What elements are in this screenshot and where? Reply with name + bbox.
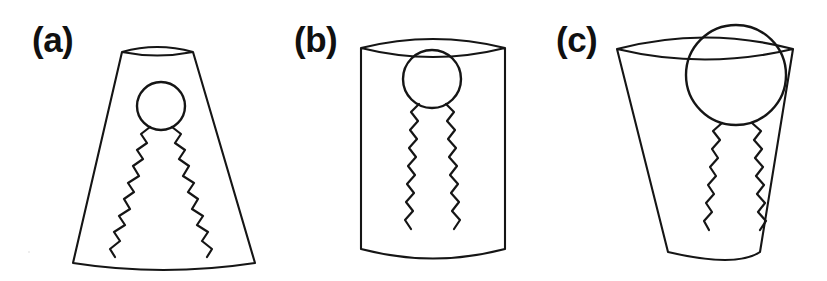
panel-label-c: (c) [556,22,597,57]
panel-label-a: (a) [32,22,73,57]
panel-b: (b) [280,0,540,281]
top-rim-ellipse [122,47,193,52]
headgroup-circle [137,82,185,130]
panel-c: (c) [540,0,827,281]
top-rim-ellipse [361,39,505,48]
panel-label-b: (b) [294,22,337,57]
scan-artifact-speck [28,251,30,253]
headgroup-circle [403,50,461,108]
headgroup-circle [686,25,786,125]
panel-a: (a) [0,0,280,281]
figure-root: (a) (b) (c) [0,0,827,281]
